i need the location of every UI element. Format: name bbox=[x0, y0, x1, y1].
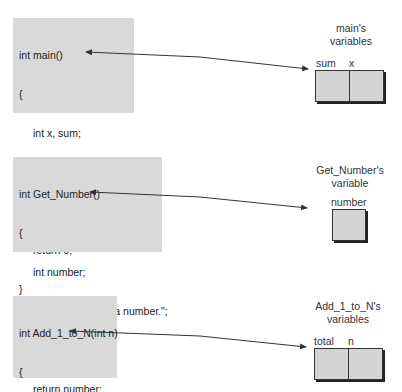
arrow-line bbox=[70, 331, 200, 336]
arrow-line bbox=[200, 336, 306, 347]
arrow-line bbox=[200, 197, 307, 208]
connector-arrows bbox=[0, 0, 402, 392]
arrow-line bbox=[86, 52, 200, 57]
arrow-line bbox=[90, 192, 200, 197]
arrow-line bbox=[200, 57, 308, 69]
